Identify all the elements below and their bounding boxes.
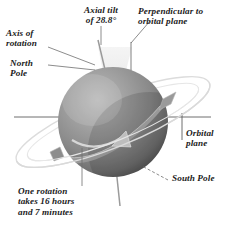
label-north-pole: North Pole: [10, 58, 55, 79]
leader-south-pole: [142, 166, 168, 180]
label-rotation-period: One rotation takes 16 hours and 7 minute…: [18, 186, 114, 217]
leader-axis-of-rotation: [48, 47, 95, 65]
leader-north-pole: [48, 65, 95, 70]
label-axis-of-rotation: Axis of rotation: [6, 28, 66, 49]
label-axial-tilt: Axial tilt of 28.8°: [66, 5, 136, 26]
label-orbital-plane: Orbital plane: [186, 128, 229, 149]
label-perpendicular-to-orbital-plane: Perpendicular to orbital plane: [138, 6, 226, 27]
label-south-pole: South Pole: [172, 173, 229, 183]
planet-axial-tilt-diagram: Axial tilt of 28.8° Perpendicular to orb…: [0, 0, 229, 229]
